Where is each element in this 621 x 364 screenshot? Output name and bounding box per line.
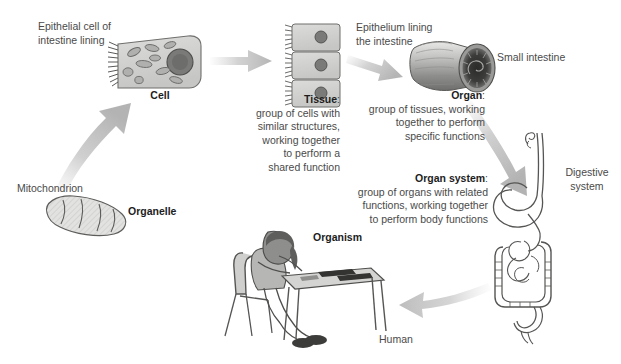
organism-human-illustration (225, 231, 386, 348)
organelle-label: Organelle (128, 205, 208, 219)
organ-body: group of tissues, working together to pe… (369, 103, 485, 142)
organ-system-heading: Organ system (415, 172, 485, 184)
epithelium-lining-label: Epithelium lining the intestine (356, 21, 486, 48)
biology-hierarchy-diagram: Epithelial cell of intestine lining Cell… (0, 0, 621, 364)
mitochondrion-illustration (47, 196, 126, 236)
organ-small-intestine-illustration (410, 42, 495, 92)
arrow-cell-to-tissue (210, 50, 272, 72)
epithelial-cell-label: Epithelial cell of intestine lining (38, 20, 178, 47)
organ-description: Organ: group of tissues, working togethe… (330, 89, 485, 143)
organ-heading: Organ (451, 89, 482, 101)
cell-label: Cell (118, 89, 202, 103)
tissue-body: group of cells with similar structures, … (256, 107, 340, 173)
organ-system-colon: : (485, 172, 488, 184)
organ-system-body: group of organs with related functions, … (358, 186, 488, 225)
organ-system-description: Organ system: group of organs with relat… (328, 172, 488, 226)
human-label: Human (379, 333, 439, 347)
small-intestine-label: Small intestine (497, 51, 607, 65)
arrow-organ-system-to-organism (399, 283, 492, 318)
organism-label: Organism (313, 231, 403, 245)
arrow-organelle-to-cell (55, 103, 131, 193)
organ-colon: : (482, 89, 485, 101)
digestive-system-illustration (494, 133, 551, 344)
arrow-tissue-to-organ (346, 55, 403, 81)
mitochondrion-label: Mitochondrion (17, 182, 127, 196)
tissue-description: Tissue: group of cells with similar stru… (200, 93, 340, 174)
digestive-system-label: Digestive system (556, 166, 618, 193)
